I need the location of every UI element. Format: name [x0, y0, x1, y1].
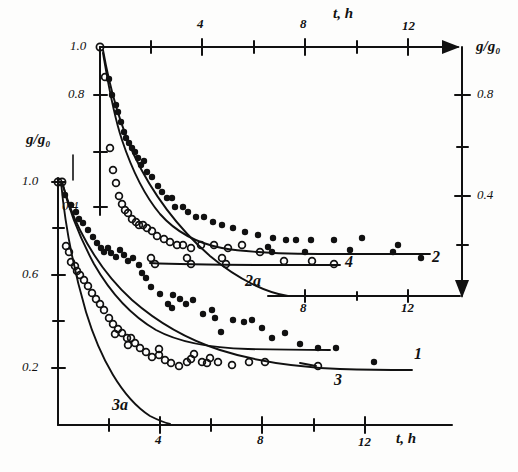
curve-label-2a: 2a: [245, 272, 261, 290]
upper-axis-tick-1-0: 1.0: [70, 38, 86, 54]
series-1-markers: [62, 192, 377, 365]
top-axis-title: t, h: [333, 5, 353, 22]
curve-2-path: [103, 53, 430, 254]
bottom-axis-title: t, h: [396, 430, 416, 447]
right-axis-tick-0-4: 0.4: [477, 187, 493, 203]
left-axis-tick-0-6: 0.6: [22, 266, 38, 282]
lower-panel-axes: [52, 155, 452, 433]
top-axis-tick-8: 8: [300, 16, 307, 32]
bottom-axis-tick-4: 4: [155, 432, 162, 448]
bottom-axis-tick-12: 12: [358, 434, 371, 450]
series-4-markers: [102, 74, 338, 268]
curve-label-3a: 3a: [112, 396, 128, 414]
curve-label-3: 3: [334, 371, 342, 389]
left-axis-tick-1-0: 1.0: [22, 173, 38, 189]
right-axis-title: g/g₀: [476, 38, 500, 55]
curve-label-2: 2: [432, 248, 440, 266]
left-axis-title: g/g₀: [26, 131, 50, 148]
top-axis-tick-12: 12: [402, 18, 415, 34]
curve-label-4: 4: [345, 253, 353, 271]
upper-axis-tick-0-8: 0.8: [68, 86, 84, 102]
upper-baseline-tick-8: 8: [300, 300, 307, 316]
figure-canvas: 4 8 12 t, h g/g₀ 0.8 0.4 1.0 0.8 0.4 g/g…: [0, 0, 518, 472]
plot-vector-layer: [0, 0, 518, 472]
bottom-axis-tick-8: 8: [257, 432, 264, 448]
left-axis-tick-0-2: 0.2: [22, 359, 38, 375]
upper-axis-tick-0-4: 0.4: [62, 198, 78, 214]
right-axis-tick-0-8: 0.8: [477, 86, 493, 102]
curve-label-1: 1: [414, 345, 422, 363]
top-axis-tick-4: 4: [197, 16, 204, 32]
upper-baseline-tick-12: 12: [401, 300, 414, 316]
